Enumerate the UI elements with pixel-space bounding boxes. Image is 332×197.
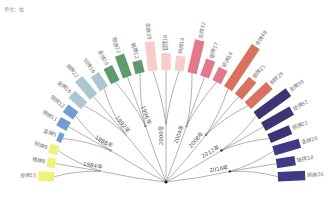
medal-bar[interactable]: [132, 60, 144, 74]
medal-bar[interactable]: [104, 65, 120, 84]
medal-bar[interactable]: [69, 91, 88, 109]
bar-label: 铜牌26: [307, 170, 324, 179]
link-line: [186, 77, 204, 126]
medal-bar[interactable]: [115, 54, 132, 79]
year-node-dot: [165, 124, 167, 126]
link-line: [127, 77, 145, 126]
link-line: [102, 171, 166, 182]
link-line: [166, 71, 179, 126]
link-line: [111, 151, 166, 182]
medal-bar[interactable]: [212, 67, 227, 84]
medal-bar[interactable]: [161, 53, 171, 70]
medal-bar[interactable]: [56, 117, 71, 131]
link-line: [221, 116, 256, 151]
bar-label: 铜牌28: [268, 70, 286, 87]
medal-bar[interactable]: [187, 39, 204, 74]
year-node-dot: [101, 170, 103, 172]
year-node-dot: [220, 149, 222, 151]
link-line: [230, 151, 274, 172]
medal-bar[interactable]: [272, 139, 301, 156]
bar-label: 银牌16: [161, 35, 169, 52]
year-node-dot: [109, 149, 111, 151]
link-line: [166, 171, 230, 182]
medal-bar[interactable]: [63, 104, 79, 119]
bar-label: 金牌48: [253, 29, 269, 47]
link-line: [153, 71, 166, 126]
link-line: [186, 82, 216, 126]
year-label: 1996年: [139, 104, 153, 126]
bar-label: 银牌17: [207, 41, 220, 59]
medal-bar[interactable]: [91, 72, 108, 91]
year-node-dot: [205, 134, 207, 136]
bar-label: 金牌38: [287, 77, 305, 93]
medal-bar[interactable]: [48, 144, 60, 156]
bar-label: 铜牌14: [177, 36, 187, 54]
link-line: [54, 171, 102, 176]
year-node-dot: [185, 125, 187, 127]
bar-label: 银牌22: [110, 36, 123, 54]
bar-label: 银牌18: [296, 153, 314, 164]
medal-bar[interactable]: [56, 132, 65, 143]
year-label: 2008年: [187, 129, 206, 149]
bar-label: 铜牌12: [49, 94, 67, 110]
year-node-dot: [229, 170, 231, 172]
bar-label: 金牌32: [196, 21, 208, 39]
year-label: 1984年: [83, 160, 104, 171]
bar-label: 金牌15: [20, 171, 37, 180]
link-line: [221, 127, 263, 151]
root-node-dot: [164, 180, 167, 183]
bar-label: 银牌21: [250, 63, 267, 81]
bar-label: 铜牌14: [220, 50, 235, 69]
bar-label: 金牌28: [144, 23, 154, 40]
link-line: [206, 97, 238, 135]
bar-label: 铜牌16: [82, 57, 98, 75]
link-line: [206, 89, 228, 135]
medal-bar[interactable]: [174, 56, 185, 72]
bar-label: 金牌26: [300, 134, 318, 146]
radial-medal-chart: 金牌15银牌8铜牌9金牌5银牌11铜牌12金牌16银牌22铜牌16金牌16银牌2…: [0, 0, 332, 197]
link-line: [230, 164, 277, 172]
bar-label: 银牌11: [41, 108, 59, 123]
medal-bar[interactable]: [276, 156, 296, 168]
medal-bar[interactable]: [38, 171, 54, 181]
bar-label: 铜牌22: [291, 118, 309, 132]
medal-bar[interactable]: [145, 41, 158, 71]
link-line: [221, 139, 269, 151]
year-label: 2016年: [209, 163, 230, 174]
bar-label: 银牌8: [32, 155, 46, 165]
link-line: [230, 171, 278, 176]
medal-bar[interactable]: [278, 171, 306, 182]
year-label: 1988年: [93, 133, 114, 150]
radial-bars: 金牌15银牌8铜牌9金牌5银牌11铜牌12金牌16银牌22铜牌16金牌16银牌2…: [20, 21, 324, 181]
bar-label: 金牌16: [96, 48, 111, 66]
bar-label: 铜牌9: [34, 140, 49, 151]
year-node-dot: [144, 125, 146, 127]
bar-label: 金牌5: [43, 126, 58, 139]
link-line: [94, 97, 126, 135]
medal-bar[interactable]: [46, 158, 56, 169]
year-label: 2000年: [158, 125, 166, 145]
bar-label: 银牌22: [64, 62, 81, 80]
medal-bar[interactable]: [200, 58, 215, 78]
bar-label: 银牌31: [291, 98, 309, 113]
bar-label: 铜牌12: [129, 42, 141, 60]
year-node-dot: [125, 134, 127, 136]
bar-label: 金牌16: [56, 78, 74, 95]
